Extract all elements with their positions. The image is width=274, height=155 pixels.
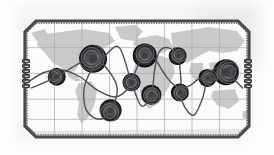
connector-bead[interactable] <box>244 79 252 83</box>
connector-bead[interactable] <box>244 84 252 88</box>
left-bead-stack[interactable] <box>22 59 30 88</box>
right-bead-stack[interactable] <box>244 59 252 88</box>
connector-bead[interactable] <box>22 59 30 63</box>
connector-bead[interactable] <box>22 64 30 68</box>
world-map-diagram[interactable] <box>23 19 251 139</box>
node-marker[interactable] <box>175 53 180 58</box>
map-body <box>23 19 251 139</box>
connector-bead[interactable] <box>22 84 30 88</box>
node-marker[interactable] <box>107 107 113 113</box>
node-marker[interactable] <box>129 80 134 85</box>
node-marker[interactable] <box>222 68 231 77</box>
node-marker[interactable] <box>54 74 59 79</box>
connector-bead[interactable] <box>244 74 252 78</box>
connector-bead[interactable] <box>22 79 30 83</box>
connector-bead[interactable] <box>244 69 252 73</box>
connector-bead[interactable] <box>22 74 30 78</box>
figure-canvas <box>0 0 274 155</box>
connector-bead[interactable] <box>22 69 30 73</box>
node-marker[interactable] <box>177 90 182 95</box>
node-marker[interactable] <box>205 75 210 80</box>
connector-bead[interactable] <box>244 59 252 63</box>
node-marker[interactable] <box>142 52 148 58</box>
node-marker[interactable] <box>149 92 154 97</box>
map-plate[interactable] <box>23 19 251 139</box>
connector-bead[interactable] <box>244 64 252 68</box>
node-marker[interactable] <box>89 55 98 64</box>
